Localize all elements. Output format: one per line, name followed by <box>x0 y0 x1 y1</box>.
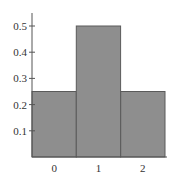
bar-2 <box>121 92 165 158</box>
x-tick-label: 2 <box>140 162 146 174</box>
probability-bar-chart: 0.10.20.30.40.5 012 <box>0 0 178 180</box>
y-tick-label: 0.2 <box>13 99 27 111</box>
y-tick-label: 0.1 <box>13 125 27 137</box>
bars-group <box>32 26 165 157</box>
x-tick-label: 0 <box>51 162 57 174</box>
bar-0 <box>32 92 76 158</box>
x-tick-label: 1 <box>96 162 102 174</box>
bar-1 <box>76 26 120 157</box>
y-tick-label: 0.4 <box>13 46 27 58</box>
y-axis: 0.10.20.30.40.5 <box>13 13 35 157</box>
y-tick-label: 0.5 <box>13 20 27 32</box>
x-axis: 012 <box>32 157 167 174</box>
y-tick-label: 0.3 <box>13 72 27 84</box>
chart-canvas: 0.10.20.30.40.5 012 <box>0 0 178 180</box>
